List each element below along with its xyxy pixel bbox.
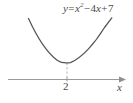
parabola-curve (29, 18, 112, 63)
equation-label: y=x2−4x+7 (63, 3, 114, 14)
parabola-figure: y=x2−4x+7 2 x (0, 0, 133, 103)
equation-equals: = (68, 2, 75, 14)
equation-plus-operator: + (101, 2, 108, 14)
x-axis-label: x (117, 82, 122, 93)
x-axis-tick-label-2: 2 (63, 81, 69, 92)
equation-constant: 7 (108, 2, 114, 14)
